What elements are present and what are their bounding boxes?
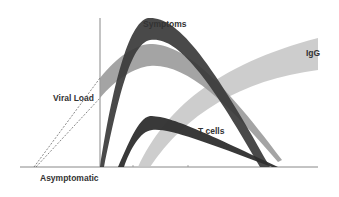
t-cells-label: T cells: [198, 126, 224, 136]
asymptomatic-label: Asymptomatic: [40, 173, 99, 183]
viral-load-label: Viral Load: [53, 93, 94, 103]
immune-response-diagram: [0, 0, 339, 197]
symptoms-label: Symptoms: [143, 19, 186, 29]
viral-load-dashed-lines: [34, 78, 100, 167]
igg-label: IgG: [306, 48, 320, 58]
symptoms-band: [100, 18, 270, 167]
